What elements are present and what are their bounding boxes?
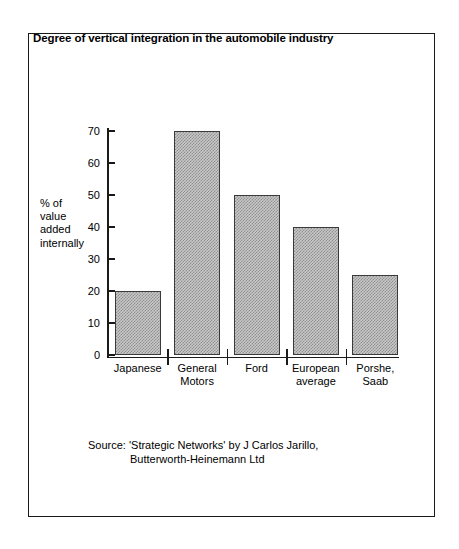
x-axis-category-line: average — [286, 375, 345, 388]
x-axis-category-label: Ford — [227, 362, 286, 375]
y-axis-tick-label: 30 — [70, 254, 100, 265]
source-line-2: Butterworth-Heinemann Ltd — [88, 452, 388, 466]
x-axis-category-line: Porshe, — [346, 362, 405, 375]
x-axis-category-label: Japanese — [108, 362, 167, 375]
y-axis-label-line-4: internally — [40, 237, 102, 250]
x-axis-category-line: Saab — [346, 375, 405, 388]
page-title: Degree of vertical integration in the au… — [33, 32, 333, 44]
x-axis-category-line: Ford — [227, 362, 286, 375]
bar-general-motors — [174, 131, 220, 355]
x-axis-category-label: Europeanaverage — [286, 362, 345, 387]
source-line-1: Source: 'Strategic Networks' by J Carlos… — [88, 439, 318, 451]
y-axis-tick-label: 20 — [70, 286, 100, 297]
x-axis-category-label: Porshe,Saab — [346, 362, 405, 387]
y-axis-tick-label: 0 — [70, 350, 100, 361]
y-axis-tick-label: 60 — [70, 158, 100, 169]
source-caption: Source: 'Strategic Networks' by J Carlos… — [88, 438, 388, 466]
y-axis-tick-label: 10 — [70, 318, 100, 329]
x-axis-category-line: European — [286, 362, 345, 375]
x-axis-category-label: GeneralMotors — [167, 362, 226, 387]
x-axis — [107, 357, 399, 359]
plot-area — [108, 131, 405, 355]
bar-porshe-saab — [352, 275, 398, 355]
x-axis-category-line: Motors — [167, 375, 226, 388]
x-axis-category-line: General — [167, 362, 226, 375]
bar-japanese — [115, 291, 161, 355]
y-axis-tick-label: 50 — [70, 190, 100, 201]
y-axis-tick-label: 70 — [70, 126, 100, 137]
bar-ford — [234, 195, 280, 355]
y-axis-tick-label: 40 — [70, 222, 100, 233]
bar-european-average — [293, 227, 339, 355]
x-axis-category-line: Japanese — [108, 362, 167, 375]
